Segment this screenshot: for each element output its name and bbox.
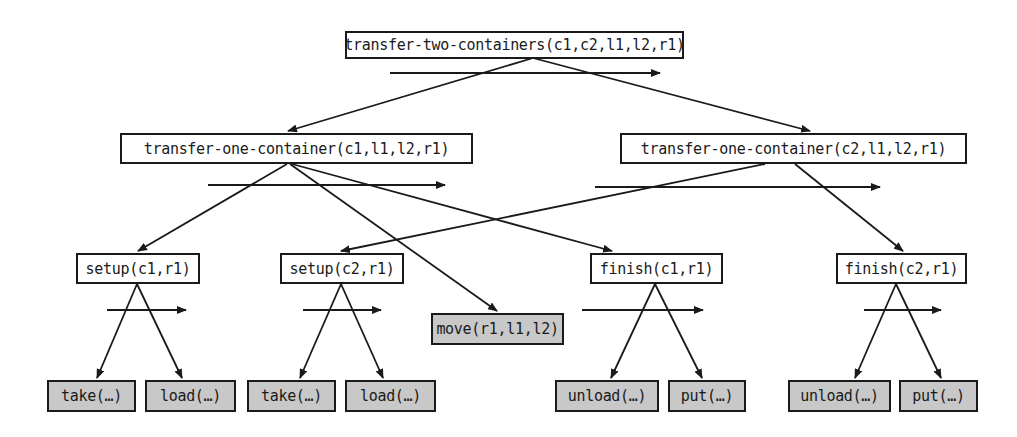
node-setup-c2: setup(c2,r1) <box>280 253 404 284</box>
edge-toc2-to-finish2 <box>795 164 903 251</box>
edge-setup1-to-load <box>137 284 182 378</box>
htn-decomposition-diagram: transfer-two-containers(c1,c2,l1,l2,r1) … <box>0 0 1017 437</box>
edge-finish1-to-put <box>655 284 702 378</box>
leaf-take-1: take(…) <box>47 380 136 412</box>
leaf-load-1: load(…) <box>145 380 236 412</box>
edge-toc1-to-setup1 <box>138 164 287 251</box>
edge-setup2-to-take <box>300 284 341 378</box>
leaf-load-2: load(…) <box>345 380 436 412</box>
edge-setup2-to-load <box>341 284 383 378</box>
node-finish-c1: finish(c1,r1) <box>590 253 723 284</box>
leaf-unload-1: unload(…) <box>555 380 659 412</box>
node-setup-c1: setup(c1,r1) <box>76 253 200 284</box>
edge-root-to-toc2 <box>533 58 810 131</box>
edge-toc1-to-move <box>290 164 497 311</box>
node-transfer-one-container-c2: transfer-one-container(c2,l1,l2,r1) <box>620 133 967 164</box>
edge-root-to-toc1 <box>288 58 533 131</box>
leaf-put-2: put(…) <box>899 380 978 412</box>
leaf-unload-2: unload(…) <box>788 380 891 412</box>
edges-layer <box>0 0 1017 437</box>
node-move: move(r1,l1,l2) <box>431 313 564 345</box>
leaf-put-1: put(…) <box>668 380 746 412</box>
edge-finish1-to-unload <box>611 284 655 378</box>
node-finish-c2: finish(c2,r1) <box>836 253 967 284</box>
edge-finish2-to-unload <box>855 284 896 378</box>
node-transfer-two-containers: transfer-two-containers(c1,c2,l1,l2,r1) <box>345 31 684 59</box>
leaf-take-2: take(…) <box>247 380 336 412</box>
node-transfer-one-container-c1: transfer-one-container(c1,l1,l2,r1) <box>120 133 473 164</box>
edge-toc1-to-finish1 <box>292 164 612 251</box>
edge-setup1-to-take <box>97 284 137 378</box>
edge-toc2-to-setup2 <box>341 164 765 251</box>
edge-finish2-to-put <box>896 284 941 378</box>
